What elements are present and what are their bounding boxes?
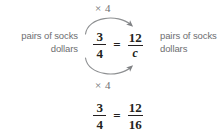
solved-left-numerator: 3 xyxy=(96,101,105,115)
solved-equals-sign: = xyxy=(113,108,120,124)
left-fraction-denominator: 4 xyxy=(96,45,105,60)
right-fraction-denominator-variable: c xyxy=(132,46,139,60)
right-units-line-1: pairs of socks xyxy=(160,30,223,43)
solved-right-denominator: 16 xyxy=(128,116,143,131)
multiplier-bottom-label: × 4 xyxy=(95,79,111,91)
right-fraction: 12 c xyxy=(128,31,143,60)
proportion-equation: 3 4 = 12 c xyxy=(82,30,154,60)
left-units-line-1: pairs of socks xyxy=(2,30,78,43)
solved-equation: 3 4 = 12 16 xyxy=(82,101,154,131)
solved-left-fraction: 3 4 xyxy=(93,101,106,131)
left-units-label: pairs of socks dollars xyxy=(2,30,78,55)
multiplier-top-label: × 4 xyxy=(95,2,111,14)
left-units-line-2: dollars xyxy=(2,43,78,56)
bottom-curved-arrow xyxy=(86,58,131,74)
right-fraction-numerator: 12 xyxy=(128,31,143,45)
left-fraction-numerator: 3 xyxy=(96,30,105,44)
solved-left-denominator: 4 xyxy=(96,116,105,131)
solved-right-numerator: 12 xyxy=(128,101,143,115)
right-units-label: pairs of socks dollars xyxy=(160,30,223,55)
equals-sign: = xyxy=(113,37,120,53)
left-fraction: 3 4 xyxy=(93,30,106,60)
right-units-line-2: dollars xyxy=(160,43,223,56)
solved-right-fraction: 12 16 xyxy=(128,101,143,131)
proportion-diagram: × 4 pairs of socks dollars 3 4 = 12 c pa… xyxy=(0,0,223,135)
